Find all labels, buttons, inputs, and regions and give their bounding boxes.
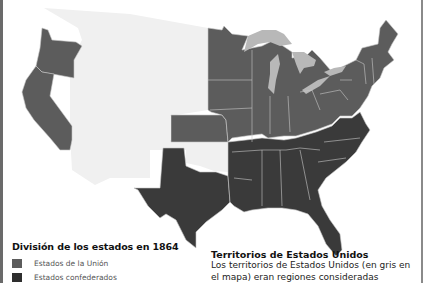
legend-item-union: Estados de la Unión — [12, 257, 179, 269]
territories-note: Territorios de Estados Unidos Los territ… — [211, 249, 421, 283]
legend-title: División de los estados en 1864 — [12, 241, 179, 252]
territories-title: Territorios de Estados Unidos — [211, 249, 421, 260]
union-swatch-icon — [12, 259, 22, 268]
confederate-swatch-icon — [12, 273, 22, 282]
legend-label-confederate: Estados confederados — [34, 273, 117, 282]
region-california — [22, 66, 72, 150]
legend-label-union: Estados de la Unión — [34, 259, 108, 268]
region-kansas — [171, 115, 228, 142]
territories-body: Los territorios de Estados Unidos (en gr… — [211, 260, 421, 283]
legend-item-confederate: Estados confederados — [12, 271, 179, 283]
region-union-north — [208, 20, 398, 142]
legend: División de los estados en 1864 Estados … — [12, 241, 179, 283]
